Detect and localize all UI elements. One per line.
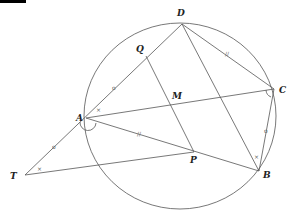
- segment-QP: [146, 56, 194, 152]
- line-TD: [25, 24, 182, 175]
- label-T: T: [10, 171, 18, 181]
- segment-TP: [25, 152, 194, 175]
- tick-DC: //: [225, 50, 230, 57]
- label-M: M: [171, 91, 183, 101]
- diagram-canvas: o o o // // × × × D C B A T P Q M: [0, 0, 296, 219]
- label-A: A: [75, 113, 83, 123]
- segment-DB: [182, 24, 259, 171]
- label-Q: Q: [136, 44, 144, 54]
- angle-x-T: ×: [37, 165, 42, 172]
- label-C: C: [279, 85, 287, 95]
- angle-arc-C: [266, 90, 271, 97]
- tick-AP: //: [137, 130, 142, 137]
- label-P: P: [189, 155, 197, 165]
- angle-x-B: ×: [254, 153, 259, 160]
- tick-AQ: o: [112, 84, 116, 91]
- circumcircle: [84, 23, 276, 209]
- angle-x-A: ×: [96, 106, 101, 113]
- tick-TA: o: [52, 143, 56, 150]
- angle-arc-A: [80, 122, 96, 131]
- label-B: B: [262, 170, 271, 180]
- geometry-diagram: o o o // // × × × D C B A T P Q M: [0, 0, 296, 219]
- tick-CB: o: [264, 127, 268, 134]
- label-D: D: [176, 8, 185, 18]
